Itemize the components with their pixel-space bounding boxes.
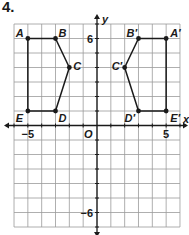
vertex-point [25,109,30,114]
x-axis-label: x [182,113,189,125]
vertex-label: A′ [169,27,182,39]
vertex-label: A [15,27,24,39]
x-axis-arrow-left-icon [4,123,9,129]
origin-label: O [84,128,93,140]
vertex-point [136,109,141,114]
vertex-point [53,36,58,41]
vertex-label: B [59,27,67,39]
vertex-label: D [59,112,67,124]
vertex-label: C [73,60,82,72]
original-polygon [28,39,69,112]
vertex-point [122,65,127,70]
vertex-point [164,36,169,41]
vertex-label: E [16,112,24,124]
vertex-label: C′ [112,60,124,72]
vertex-point [53,109,58,114]
x-tick-label: 5 [163,128,169,140]
axes [4,14,188,235]
vertex-label: D′ [124,112,136,124]
y-tick-label: −6 [80,207,93,219]
y-tick-label: 6 [87,33,93,45]
vertex-point [25,36,30,41]
vertex-point [164,109,169,114]
x-tick-label: −5 [22,128,35,140]
coordinate-plane: yxO−556−6 ABCDEA′B′C′D′E′ [0,0,189,235]
y-axis-arrow-down-icon [94,232,100,235]
vertex-label: B′ [126,27,138,39]
vertex-point [67,65,72,70]
y-axis-label: y [101,13,109,25]
vertex-label: E′ [170,112,181,124]
tick-labels: yxO−556−6 [22,13,189,219]
polygons: ABCDEA′B′C′D′E′ [15,27,182,125]
image-polygon [125,39,166,112]
y-axis-arrow-up-icon [94,14,100,19]
